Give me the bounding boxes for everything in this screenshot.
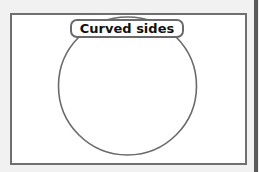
shape-label: Curved sides (70, 19, 184, 38)
